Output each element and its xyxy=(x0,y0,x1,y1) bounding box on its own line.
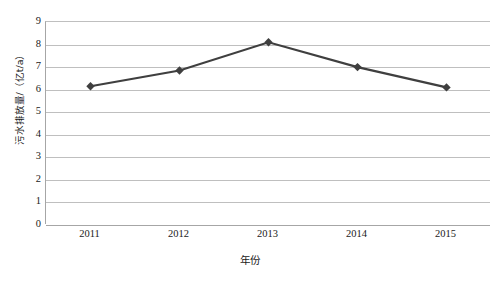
data-point-marker xyxy=(353,63,361,71)
y-axis-tick-label: 0 xyxy=(11,219,41,230)
x-axis-tick-label: 2013 xyxy=(238,228,298,240)
data-point-marker xyxy=(264,38,272,46)
y-axis-tick-label: 1 xyxy=(11,196,41,207)
x-axis-tick-label: 2012 xyxy=(149,228,209,240)
y-axis-tick-label: 2 xyxy=(11,174,41,185)
x-axis-tick-label: 2015 xyxy=(416,228,476,240)
x-axis-tick-label: 2011 xyxy=(60,228,120,240)
x-axis-tick-labels: 20112012201320142015 xyxy=(45,228,490,244)
series-wastewater-discharge xyxy=(46,22,491,225)
gridline xyxy=(46,225,490,226)
y-axis-tick-label: 9 xyxy=(11,16,41,27)
series-markers xyxy=(86,38,450,92)
y-axis-tick-label: 7 xyxy=(11,61,41,72)
y-axis-tick-label: 3 xyxy=(11,151,41,162)
y-axis-tick-label: 4 xyxy=(11,129,41,140)
line-chart: 污水排放量/（亿t/a） 9876543210 2011201220132014… xyxy=(0,0,500,284)
y-axis-tick-label: 5 xyxy=(11,106,41,117)
data-point-marker xyxy=(442,83,450,91)
x-axis-tick-label: 2014 xyxy=(327,228,387,240)
y-axis-tick-label: 8 xyxy=(11,39,41,50)
data-point-marker xyxy=(175,66,183,74)
x-axis-title: 年份 xyxy=(0,254,500,266)
data-point-marker xyxy=(86,82,94,90)
series-line xyxy=(91,42,447,87)
y-axis-tick-label: 6 xyxy=(11,84,41,95)
y-axis-tick-labels: 9876543210 xyxy=(8,21,41,224)
plot-area xyxy=(45,21,490,224)
